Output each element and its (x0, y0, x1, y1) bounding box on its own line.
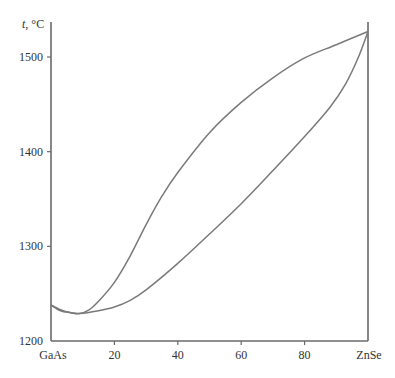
x-ticks: 20406080 (108, 341, 310, 362)
liquidus-curve (51, 31, 368, 313)
y-axis-title: t, °C (22, 17, 44, 31)
y-tick-label: 1300 (19, 239, 43, 253)
x-tick-label: 40 (172, 348, 184, 362)
x-label-left-component: GaAs (39, 348, 67, 362)
x-label-right-component: ZnSe (356, 348, 381, 362)
x-tick-label: 80 (299, 348, 311, 362)
y-tick-label: 1500 (19, 50, 43, 64)
y-tick-label: 1400 (19, 145, 43, 159)
x-tick-label: 60 (235, 348, 247, 362)
phase-diagram-chart: t, °C GaAs ZnSe 1200130014001500 2040608… (0, 0, 395, 378)
y-ticks: 1200130014001500 (19, 50, 51, 348)
x-tick-label: 20 (108, 348, 120, 362)
y-axis-unit: , °C (25, 17, 44, 31)
series-group (51, 31, 368, 313)
solidus-curve (51, 31, 368, 313)
axes (51, 22, 368, 341)
y-tick-label: 1200 (19, 334, 43, 348)
